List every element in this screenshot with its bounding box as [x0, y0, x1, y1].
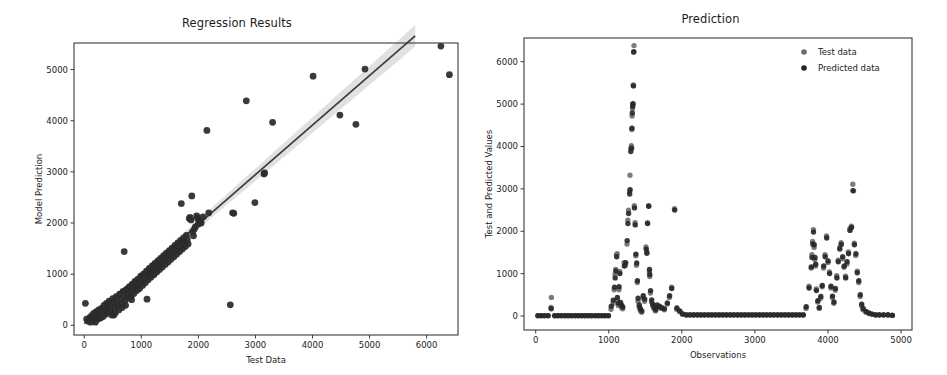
axis-text: 3000	[744, 335, 766, 345]
data-point	[205, 209, 212, 216]
data-point	[633, 251, 638, 256]
data-point	[821, 263, 826, 268]
data-point	[827, 271, 832, 276]
data-point	[804, 304, 809, 309]
data-point	[122, 302, 129, 309]
data-point	[190, 232, 197, 239]
data-point	[614, 254, 619, 259]
axis-text: 2000	[496, 226, 518, 236]
data-point	[647, 267, 652, 272]
data-point	[362, 66, 369, 73]
data-point	[844, 259, 849, 264]
data-point	[801, 312, 806, 317]
axis-text: Test data	[817, 47, 857, 57]
data-point	[811, 229, 816, 234]
data-point	[669, 286, 674, 291]
data-point	[667, 293, 672, 298]
data-point	[252, 199, 259, 206]
g	[82, 43, 453, 326]
data-point	[840, 254, 845, 259]
data-point	[204, 127, 211, 134]
data-point	[818, 294, 823, 299]
data-point	[646, 204, 651, 209]
axis-text: 6000	[496, 57, 518, 67]
axis-text: 3000	[46, 167, 68, 177]
figure-root: Regression Results 010002000300040005000…	[0, 0, 947, 375]
axis-text: 1000	[496, 269, 518, 279]
data-point	[630, 110, 635, 115]
prediction-scatter-plot: 0100020003000400050000100020003000400050…	[474, 0, 947, 375]
axis-text: 5000	[46, 65, 68, 75]
data-point	[813, 262, 818, 267]
data-point	[817, 305, 822, 310]
data-point	[629, 146, 634, 151]
data-point	[178, 200, 185, 207]
axis-text: 2000	[188, 340, 210, 350]
data-point	[639, 308, 644, 313]
axis-text: 0	[82, 340, 87, 350]
data-point	[630, 101, 635, 106]
data-point	[627, 173, 632, 178]
data-point	[632, 205, 637, 210]
axis-text: 2000	[671, 335, 693, 345]
axis-text: 0	[63, 320, 68, 330]
data-point	[623, 260, 628, 265]
g	[535, 43, 895, 319]
axis-text: Test Data	[245, 355, 286, 365]
axis-text: 3000	[496, 184, 518, 194]
data-point	[814, 288, 819, 293]
data-point	[635, 278, 640, 283]
axis-text: Model Prediction	[34, 154, 44, 224]
data-point	[839, 242, 844, 247]
data-point	[642, 296, 647, 301]
axis-text: 4000	[46, 116, 68, 126]
data-point	[635, 296, 640, 301]
data-point	[549, 306, 554, 311]
data-point	[631, 43, 636, 48]
data-point	[856, 278, 861, 283]
axis-text: Predicted data	[818, 63, 880, 73]
data-point	[82, 300, 89, 307]
data-point	[812, 242, 817, 247]
data-point	[834, 275, 839, 280]
data-point	[310, 73, 317, 80]
data-point	[625, 238, 630, 243]
data-point	[620, 304, 625, 309]
data-point	[850, 182, 855, 187]
data-point	[855, 270, 860, 275]
axis-text: 1000	[598, 335, 620, 345]
data-point	[801, 49, 807, 55]
data-point	[647, 272, 652, 277]
axis-text: Observations	[690, 350, 747, 360]
data-point	[833, 286, 838, 291]
data-point	[831, 299, 836, 304]
data-point	[438, 43, 445, 50]
data-point	[662, 306, 667, 311]
data-point	[612, 285, 617, 290]
data-point	[824, 235, 829, 240]
data-point	[198, 220, 205, 227]
data-point	[185, 241, 192, 248]
data-point	[837, 246, 842, 251]
axis-text: 5000	[359, 340, 381, 350]
data-point	[820, 283, 825, 288]
chart-title-regression: Regression Results	[0, 16, 474, 30]
data-point	[337, 112, 344, 119]
data-point	[188, 193, 195, 200]
data-point	[243, 97, 250, 104]
data-point	[613, 275, 618, 280]
data-point	[648, 288, 653, 293]
data-point	[230, 210, 237, 217]
axis-text: 5000	[890, 335, 912, 345]
axis-text: 5000	[496, 99, 518, 109]
axis-text: 6000	[416, 340, 438, 350]
data-point	[625, 221, 630, 226]
axis-text: 4000	[302, 340, 324, 350]
axis-text: 1000	[46, 269, 68, 279]
data-point	[806, 285, 811, 290]
data-point	[627, 187, 632, 192]
axis-text: 4000	[817, 335, 839, 345]
chart-title-prediction: Prediction	[474, 12, 947, 26]
data-point	[634, 260, 639, 265]
data-point	[812, 255, 817, 260]
